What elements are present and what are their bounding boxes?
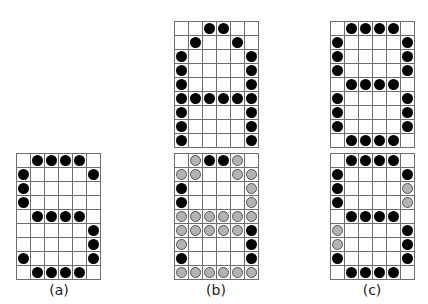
grid-cell	[331, 78, 345, 92]
grid-cell	[373, 238, 387, 252]
gray-dot-icon	[218, 267, 229, 278]
black-dot-icon	[176, 93, 187, 104]
black-dot-icon	[374, 79, 385, 90]
grid-cell	[245, 196, 259, 210]
grid-cell	[231, 210, 245, 224]
black-dot-icon	[176, 65, 187, 76]
grid-cell	[231, 154, 245, 168]
black-dot-icon	[332, 107, 343, 118]
label-b: (b)	[186, 282, 246, 298]
gray-dot-icon	[332, 225, 343, 236]
grid-cell	[189, 134, 203, 148]
black-dot-icon	[388, 79, 399, 90]
grid-cell	[387, 238, 401, 252]
grid-cell	[359, 78, 373, 92]
grid-cell	[189, 78, 203, 92]
black-dot-icon	[218, 155, 229, 166]
grid-cell	[331, 50, 345, 64]
gray-dot-icon	[176, 267, 187, 278]
grid-cell	[331, 266, 345, 280]
grid-cell	[345, 106, 359, 120]
black-dot-icon	[88, 239, 99, 250]
grid-cell	[175, 36, 189, 50]
black-dot-icon	[204, 23, 215, 34]
black-dot-icon	[388, 23, 399, 34]
black-dot-icon	[32, 267, 43, 278]
black-dot-icon	[346, 23, 357, 34]
black-dot-icon	[402, 107, 413, 118]
grid-cell	[373, 168, 387, 182]
black-dot-icon	[402, 169, 413, 180]
black-dot-icon	[176, 107, 187, 118]
grid-cell	[203, 36, 217, 50]
black-dot-icon	[176, 197, 187, 208]
grid-cell	[87, 154, 101, 168]
grid-cell	[387, 134, 401, 148]
grid-cell	[231, 120, 245, 134]
grid-cell	[45, 224, 59, 238]
grid-cell	[387, 92, 401, 106]
black-dot-icon	[246, 239, 257, 250]
grid-cell	[245, 224, 259, 238]
grid-cell	[401, 238, 415, 252]
grid-cell	[331, 92, 345, 106]
gray-dot-icon	[190, 211, 201, 222]
grid-cell	[59, 252, 73, 266]
grid-cell	[359, 224, 373, 238]
grid-cell	[373, 210, 387, 224]
grid-cell	[345, 252, 359, 266]
grid-cell	[189, 224, 203, 238]
grid-cell	[373, 134, 387, 148]
grid-cell	[387, 36, 401, 50]
grid-cell	[203, 50, 217, 64]
grid-cell	[373, 36, 387, 50]
grid-cell	[203, 120, 217, 134]
grid-cell	[245, 154, 259, 168]
grid-cell	[331, 22, 345, 36]
grid-cell	[401, 154, 415, 168]
grid-cell	[231, 168, 245, 182]
grid-cell	[345, 210, 359, 224]
black-dot-icon	[246, 107, 257, 118]
grid-cell	[331, 238, 345, 252]
black-dot-icon	[332, 51, 343, 62]
grid-cell	[217, 106, 231, 120]
grid-cell	[401, 64, 415, 78]
grid-cell	[231, 22, 245, 36]
grid-cell	[45, 266, 59, 280]
grid-cell	[175, 50, 189, 64]
grid-cell	[387, 64, 401, 78]
grid-cell	[203, 134, 217, 148]
grid-cell	[73, 238, 87, 252]
grid-cell	[45, 210, 59, 224]
grid-cell	[175, 64, 189, 78]
black-dot-icon	[246, 253, 257, 264]
grid-cell	[345, 36, 359, 50]
grid-cell	[387, 224, 401, 238]
grid-cell	[175, 182, 189, 196]
black-dot-icon	[360, 211, 371, 222]
grid-cell	[17, 196, 31, 210]
black-dot-icon	[176, 79, 187, 90]
grid-cell	[217, 168, 231, 182]
grid-cell	[45, 252, 59, 266]
grid-cell	[175, 106, 189, 120]
grid-cell	[175, 196, 189, 210]
grid-cell	[217, 134, 231, 148]
grid-cell	[59, 238, 73, 252]
grid-cell	[31, 252, 45, 266]
black-dot-icon	[46, 211, 57, 222]
grid-cell	[359, 196, 373, 210]
black-dot-icon	[18, 169, 29, 180]
grid-cell	[231, 182, 245, 196]
black-dot-icon	[60, 211, 71, 222]
black-dot-icon	[346, 79, 357, 90]
grid-cell	[231, 36, 245, 50]
grid-cell	[217, 252, 231, 266]
grid-cell	[175, 134, 189, 148]
gray-dot-icon	[402, 183, 413, 194]
grid-cell	[189, 210, 203, 224]
grid-cell	[345, 238, 359, 252]
grid-cell	[331, 154, 345, 168]
grid-cell	[359, 182, 373, 196]
